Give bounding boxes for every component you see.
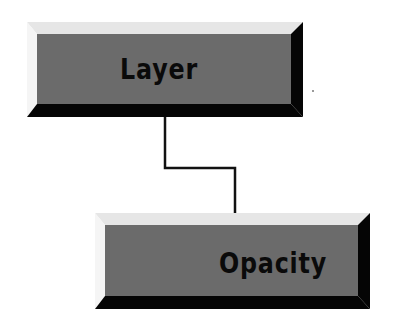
stray-dot — [312, 90, 314, 92]
node-label-opacity: Opacity — [207, 246, 338, 280]
node-opacity[interactable]: Opacity — [95, 213, 370, 309]
